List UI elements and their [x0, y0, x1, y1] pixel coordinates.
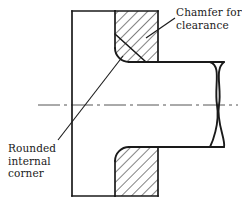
rounded-corner-annotation-line2: internal: [8, 155, 51, 167]
chamfer-annotation: Chamfer forclearance: [176, 6, 242, 31]
chamfer-annotation-line2: clearance: [176, 19, 229, 31]
technical-drawing-figure: Chamfer forclearance Roundedinternalcorn…: [0, 0, 242, 207]
chamfer-annotation-line1: Chamfer for: [176, 6, 242, 18]
rounded-corner-annotation-line3: corner: [8, 167, 44, 179]
rounded-corner-leader-line: [58, 56, 123, 140]
rounded-corner-annotation-line1: Rounded: [8, 142, 56, 154]
rounded-corner-annotation: Roundedinternalcorner: [8, 142, 56, 180]
